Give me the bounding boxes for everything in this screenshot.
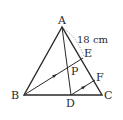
label-c: C <box>104 89 112 102</box>
triangle-diagram: A B C D E F P 18 cm <box>0 0 123 120</box>
parallel-arrow-icon <box>81 86 86 90</box>
measurement-label: 18 cm <box>77 34 109 45</box>
label-a: A <box>57 14 67 27</box>
label-b: B <box>11 89 19 102</box>
label-f: F <box>96 71 104 84</box>
label-e: E <box>84 47 92 60</box>
label-d: D <box>66 97 75 110</box>
segment-ad <box>62 27 71 95</box>
label-p: P <box>71 65 79 78</box>
